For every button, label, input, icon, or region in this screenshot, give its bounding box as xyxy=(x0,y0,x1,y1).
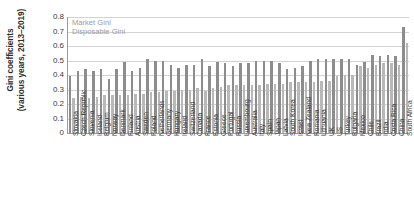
x-axis-category-label: Chile xyxy=(368,121,375,136)
x-axis-category-label: Czech Republic xyxy=(81,90,88,136)
x-axis-category-label: Denmark xyxy=(120,109,127,136)
x-axis-category-label: Japan xyxy=(275,118,282,136)
bar-group xyxy=(262,17,270,133)
y-axis-tick-label: 0.4 xyxy=(53,71,64,79)
x-axis-category-label: Ireland xyxy=(182,116,189,136)
x-axis-category-label: New Zealand xyxy=(306,97,313,136)
x-axis-category-label: Slovenia xyxy=(89,111,96,136)
gini-coefficients-bar-chart: Gini coefficients (various years, 2013–2… xyxy=(0,0,414,212)
x-axis-category-label: Luxembourg xyxy=(244,99,251,136)
x-axis-category-label: Hungary xyxy=(174,111,181,136)
x-axis-category-label: Sweden xyxy=(143,112,150,136)
y-axis-title-line1: Gini coefficients xyxy=(5,0,16,125)
y-axis-tick-label: 0.5 xyxy=(53,57,64,65)
y-axis-tick-label: 0.1 xyxy=(53,115,64,123)
bar-group xyxy=(270,17,278,133)
legend-item-disposable-gini: Disposable Gini xyxy=(72,27,125,36)
x-axis-category-label: Mexico xyxy=(360,115,367,136)
bar-market-gini xyxy=(402,27,405,133)
x-axis-category-label: South Africa xyxy=(407,100,414,136)
y-axis-tick-label: 0.6 xyxy=(53,42,64,50)
bar-market-gini xyxy=(340,59,343,133)
x-axis-category-label: Israel xyxy=(298,120,305,136)
x-axis-category-label: Poland xyxy=(151,115,158,136)
legend-item-market-gini: Market Gini xyxy=(72,18,125,27)
y-axis-tick-label: 0.2 xyxy=(53,100,64,108)
x-axis-category-label: UK xyxy=(329,127,336,136)
y-axis-tick-labels: 0.80.70.60.50.40.30.20.10 xyxy=(38,12,64,134)
y-axis-tick-label: 0 xyxy=(60,129,64,137)
x-axis-category-label: Norway xyxy=(112,114,119,136)
bar-group xyxy=(277,17,285,133)
bar-group xyxy=(332,17,340,133)
y-axis-title: Gini coefficients (various years, 2013–2… xyxy=(5,0,37,125)
x-axis-category-labels: SlovakiaCzech RepublicSloveniaIcelandBel… xyxy=(67,136,408,210)
bar-group xyxy=(378,17,386,133)
x-axis-category-label: China xyxy=(399,119,406,136)
bar-disposable-gini xyxy=(328,81,331,133)
y-axis-tick-label: 0.8 xyxy=(53,13,64,21)
x-axis-category-label: Russia xyxy=(236,116,243,136)
bar-disposable-gini xyxy=(336,76,339,133)
x-axis-category-label: Spain xyxy=(267,119,274,136)
bar-market-gini xyxy=(332,59,335,133)
x-axis-category-label: Costa Rica xyxy=(391,104,398,136)
x-axis-category-label: US xyxy=(337,127,344,136)
chart-legend: Market Gini Disposable Gini xyxy=(72,18,125,36)
y-axis-title-line2: (various years, 2013–2019) xyxy=(16,0,27,125)
x-axis-category-label: France xyxy=(205,115,212,136)
y-axis-tick-label: 0.3 xyxy=(53,86,64,94)
bar-group xyxy=(370,17,378,133)
y-axis-tick-label: 0.7 xyxy=(53,28,64,36)
bar-market-gini xyxy=(263,61,266,134)
x-axis-category-label: Estonia xyxy=(213,114,220,136)
